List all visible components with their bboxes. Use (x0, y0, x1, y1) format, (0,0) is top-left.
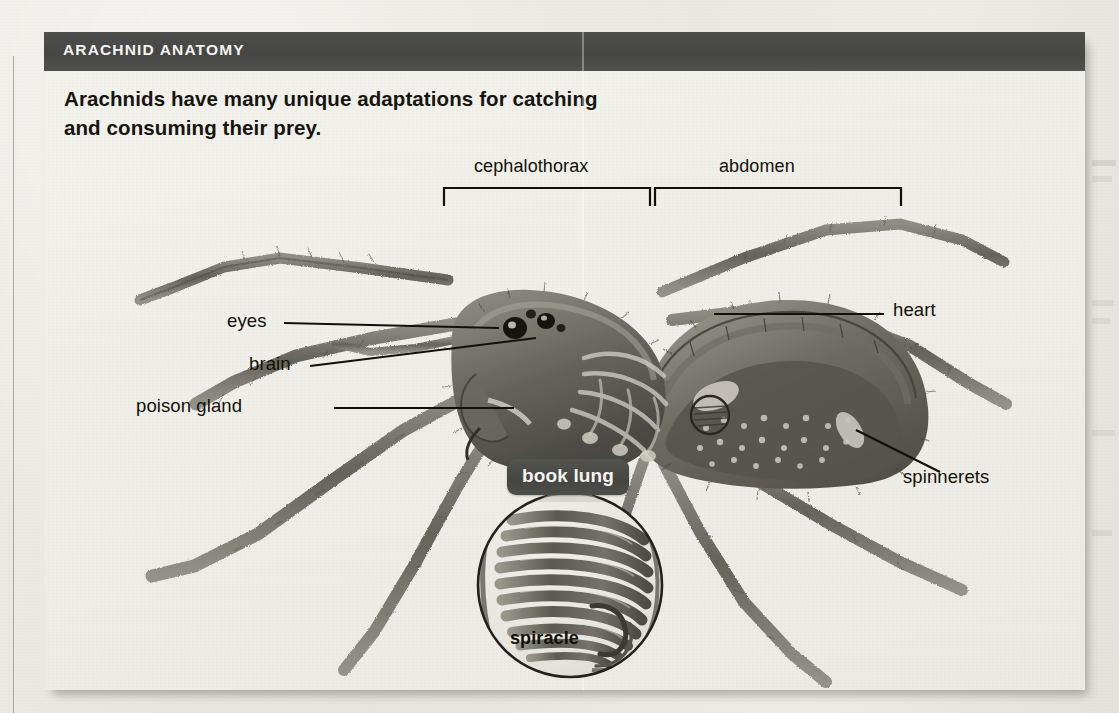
bracket-cephalothorax (444, 188, 650, 206)
magnifier-label-spiracle: spiracle (510, 628, 579, 649)
callout-label-poison-gland: poison gland (136, 395, 242, 417)
bracket-label-abdomen: abdomen (719, 156, 795, 177)
book-lung-callout-chip: book lung (507, 459, 629, 495)
callout-label-brain: brain (249, 353, 291, 375)
subtitle-line-1: Arachnids have many unique adaptations f… (64, 87, 598, 110)
section-header-bar: ARACHNID ANATOMY (44, 32, 1085, 71)
page-margin-rule (13, 56, 14, 713)
book-lung-magnifier (476, 493, 662, 677)
showthrough-text (1092, 318, 1110, 324)
bracket-label-cephalothorax: cephalothorax (474, 156, 588, 177)
bracket-abdomen (655, 188, 901, 206)
callout-label-spinnerets: spinnerets (903, 466, 989, 488)
book-lung-chip-label: book lung (522, 465, 614, 486)
book-page: ARACHNID ANATOMY Arachnids have many uni… (0, 0, 1119, 713)
showthrough-text (1092, 530, 1112, 536)
showthrough-text (1092, 160, 1116, 166)
content-panel: ARACHNID ANATOMY Arachnids have many uni… (44, 32, 1085, 690)
page-title: ARACHNID ANATOMY (63, 41, 245, 59)
section-subtitle: Arachnids have many unique adaptations f… (64, 84, 704, 142)
subtitle-line-2: and consuming their prey. (64, 116, 321, 139)
showthrough-text (1092, 430, 1115, 436)
callout-label-heart: heart (893, 299, 936, 321)
callout-label-eyes: eyes (227, 310, 266, 332)
showthrough-text (1092, 176, 1112, 182)
showthrough-text (1092, 300, 1114, 306)
spider-anatomy-illustration: cephalothorax abdomen eyes brain poison … (44, 142, 1085, 690)
